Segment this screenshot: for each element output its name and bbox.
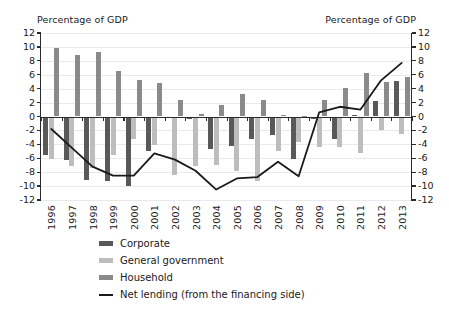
y-tick-left: [37, 199, 41, 200]
y-tick-label-left: -2: [26, 125, 35, 135]
x-tick: [103, 117, 104, 121]
y-tick-left: [37, 130, 41, 131]
x-tick-label: 2008: [294, 205, 305, 230]
bar-household: [96, 52, 101, 117]
y-tick-label-left: 8: [29, 56, 35, 66]
legend-label: Net lending (from the financing side): [120, 289, 305, 300]
legend-item[interactable]: Net lending (from the financing side): [99, 286, 305, 303]
y-tick-label-left: -4: [26, 139, 35, 149]
x-tick: [227, 117, 228, 121]
x-tick-label: 2011: [355, 205, 366, 230]
x-tick-label: 1999: [108, 205, 119, 230]
y-tick-right: [412, 32, 416, 33]
y-tick-right: [412, 199, 416, 200]
bar-govt: [131, 117, 136, 139]
x-tick-label: 2005: [232, 205, 243, 230]
bar-corporate: [208, 117, 213, 149]
x-tick: [185, 117, 186, 121]
y-tick-label-left: 12: [23, 28, 35, 38]
x-tick-label: 1996: [46, 205, 57, 230]
bar-govt: [296, 117, 301, 142]
bar-household: [54, 48, 59, 117]
y-tick-label-right: 4: [418, 84, 424, 94]
bar-corporate: [291, 117, 296, 159]
y-tick-right: [412, 102, 416, 103]
x-tick: [41, 117, 42, 121]
y-tick-label-right: -2: [418, 125, 427, 135]
bar-corporate: [64, 117, 69, 161]
y-tick-label-right: 0: [418, 112, 424, 122]
y-tick-left: [37, 144, 41, 145]
y-tick-label-right: -8: [418, 167, 427, 177]
y-tick-right: [412, 158, 416, 159]
y-tick-left: [37, 158, 41, 159]
bar-govt: [255, 117, 260, 182]
bar-govt: [152, 117, 157, 146]
legend-item[interactable]: General government: [99, 252, 305, 269]
bar-govt: [358, 117, 363, 154]
y-tick-right: [412, 185, 416, 186]
y-tick-label-left: 6: [29, 70, 35, 80]
bar-household: [261, 100, 266, 117]
x-tick-label: 2000: [129, 205, 140, 230]
x-tick-label: 2004: [211, 205, 222, 230]
x-tick-label: 2013: [397, 205, 408, 230]
y-tick-right: [412, 130, 416, 131]
bar-corporate: [249, 117, 254, 139]
x-tick: [309, 117, 310, 121]
x-tick: [412, 117, 413, 121]
bar-govt: [337, 117, 342, 148]
gridline: [41, 200, 412, 201]
x-tick: [165, 117, 166, 121]
x-tick: [82, 117, 83, 121]
chart-legend: CorporateGeneral governmentHouseholdNet …: [99, 235, 305, 303]
y-tick-right: [412, 88, 416, 89]
y-tick-label-left: -8: [26, 167, 35, 177]
x-tick: [123, 117, 124, 121]
bar-corporate: [84, 117, 89, 180]
y-tick-label-right: 8: [418, 56, 424, 66]
y-tick-label-right: 2: [418, 98, 424, 108]
y-tick-right: [412, 60, 416, 61]
y-tick-label-right: -6: [418, 153, 427, 163]
legend-swatch-line: [99, 294, 113, 296]
y-tick-right: [412, 46, 416, 47]
bar-household: [75, 55, 80, 116]
x-tick-label: 2009: [314, 205, 325, 230]
bar-govt: [49, 117, 54, 159]
y-tick-label-right: 6: [418, 70, 424, 80]
bar-corporate: [43, 117, 48, 156]
legend-label: General government: [120, 255, 224, 266]
bar-govt: [399, 117, 404, 134]
bar-household: [322, 100, 327, 116]
bar-govt: [214, 117, 219, 165]
x-tick: [391, 117, 392, 121]
bar-household: [364, 73, 369, 117]
y-tick-label-left: 2: [29, 98, 35, 108]
x-tick: [268, 117, 269, 121]
left-axis-caption: Percentage of GDP: [37, 14, 128, 25]
bar-household: [384, 82, 389, 117]
bar-corporate: [332, 117, 337, 139]
bar-household: [343, 88, 348, 117]
legend-item[interactable]: Household: [99, 269, 305, 286]
y-tick-left: [37, 88, 41, 89]
x-tick: [350, 117, 351, 121]
right-axis-caption: Percentage of GDP: [325, 14, 416, 25]
bar-corporate: [105, 117, 110, 181]
y-tick-left: [37, 102, 41, 103]
bar-govt: [193, 117, 198, 166]
bar-corporate: [229, 117, 234, 147]
x-tick-label: 2006: [252, 205, 263, 230]
legend-item[interactable]: Corporate: [99, 235, 305, 252]
x-tick-label: 2003: [191, 205, 202, 230]
legend-label: Household: [120, 272, 173, 283]
legend-label: Corporate: [120, 238, 170, 249]
bar-govt: [317, 117, 322, 148]
y-tick-label-left: -6: [26, 153, 35, 163]
y-tick-label-right: -10: [418, 181, 434, 191]
bar-govt: [276, 117, 281, 152]
y-tick-label-right: -12: [418, 195, 434, 205]
chart-container: Percentage of GDP Percentage of GDP 1996…: [0, 0, 449, 314]
bar-govt: [234, 117, 239, 172]
